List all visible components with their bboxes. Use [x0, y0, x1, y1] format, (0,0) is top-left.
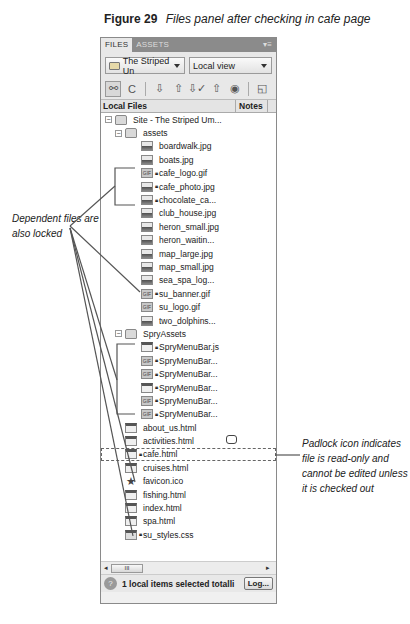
file-name: cruises.html — [143, 463, 188, 473]
file-name: sea_spa_log... — [159, 275, 214, 285]
file-name: favicon.ico — [143, 476, 183, 486]
put-files-icon[interactable]: ⇧ — [170, 81, 186, 97]
tree-file[interactable]: fishing.html — [101, 488, 276, 501]
design-note-icon[interactable] — [226, 435, 237, 444]
tree-file[interactable]: GIF🔒︎SpryMenuBar... — [101, 394, 276, 407]
view-select[interactable]: Local view — [189, 57, 272, 74]
get-files-icon[interactable]: ⇩ — [151, 81, 167, 97]
check-in-icon[interactable]: ⇧ — [208, 81, 224, 97]
file-name: assets — [143, 128, 168, 138]
scroll-left-icon[interactable]: ◂ — [101, 564, 111, 572]
tree-file[interactable]: 🔒︎cafe.html — [101, 448, 276, 461]
padlock-icon: 🔒︎ — [155, 183, 158, 190]
tree-file[interactable]: 🔒︎chocolate_ca... — [101, 193, 276, 206]
refresh-icon[interactable]: C — [124, 81, 140, 97]
chevron-down-icon — [261, 64, 267, 68]
tree-folder[interactable]: −assets — [101, 126, 276, 139]
tree-file[interactable]: 🔒︎cafe_photo.jpg — [101, 180, 276, 193]
help-icon[interactable]: ? — [104, 577, 117, 590]
tree-file[interactable]: about_us.html — [101, 421, 276, 434]
tree-file[interactable]: spa.html — [101, 515, 276, 528]
file-name: SpryMenuBar... — [159, 409, 218, 419]
collapse-toggle-icon[interactable]: − — [115, 130, 122, 137]
tree-file[interactable]: 🔒︎su_styles.css — [101, 528, 276, 541]
scroll-thumb[interactable]: III — [111, 564, 143, 573]
img-file-icon — [141, 249, 153, 259]
tree-file[interactable]: 🔒︎SpryMenuBar.js — [101, 341, 276, 354]
column-notes[interactable]: Notes — [236, 100, 268, 112]
figure-label: Figure 29 — [104, 12, 157, 26]
file-tree[interactable]: −Site - The Striped Um...−assetsboardwal… — [101, 113, 276, 561]
scroll-right-icon[interactable]: ▸ — [266, 564, 270, 572]
img-file-icon — [141, 262, 153, 272]
tree-file[interactable]: map_small.jpg — [101, 260, 276, 273]
synchronize-icon[interactable]: ◉ — [227, 81, 243, 97]
tree-file[interactable]: cruises.html — [101, 461, 276, 474]
tree-file[interactable]: GIF🔒︎SpryMenuBar... — [101, 367, 276, 380]
tree-file[interactable]: GIF🔒︎cafe_logo.gif — [101, 167, 276, 180]
tree-file[interactable]: ★favicon.ico — [101, 475, 276, 488]
js-file-icon — [141, 383, 153, 393]
html-file-icon — [125, 449, 137, 459]
padlock-icon: 🔒︎ — [155, 170, 158, 177]
check-out-icon[interactable]: ⇩✓ — [189, 81, 205, 97]
tree-file[interactable]: boardwalk.jpg — [101, 140, 276, 153]
file-name: heron_waitin... — [159, 235, 214, 245]
tree-file[interactable]: 🔒︎SpryMenuBar... — [101, 381, 276, 394]
figure-caption: Figure 29 Files panel after checking in … — [104, 12, 371, 26]
gif-file-icon: GIF — [141, 289, 153, 299]
file-name: SpryMenuBar... — [159, 383, 218, 393]
file-name: spa.html — [143, 516, 175, 526]
folder-icon — [109, 62, 120, 70]
horizontal-scrollbar[interactable]: ◂ III ▸ — [101, 561, 276, 574]
tree-file[interactable]: two_dolphins... — [101, 314, 276, 327]
file-name: cafe_logo.gif — [159, 168, 207, 178]
img-file-icon — [141, 235, 153, 245]
chevron-down-icon — [174, 64, 180, 68]
img-file-icon — [141, 208, 153, 218]
tab-files[interactable]: FILES — [101, 38, 132, 52]
tree-file[interactable]: map_large.jpg — [101, 247, 276, 260]
gif-file-icon: GIF — [141, 168, 153, 178]
file-name: map_large.jpg — [159, 249, 213, 259]
css-file-icon — [125, 530, 137, 540]
column-local-files[interactable]: Local Files — [101, 100, 236, 112]
file-name: two_dolphins... — [159, 316, 216, 326]
padlock-icon: 🔒︎ — [155, 411, 158, 418]
file-name: SpryMenuBar... — [159, 369, 218, 379]
collapse-toggle-icon[interactable]: − — [115, 330, 122, 337]
panel-menu-icon[interactable]: ▾≡ — [263, 40, 272, 49]
tree-folder[interactable]: −Site - The Striped Um... — [101, 113, 276, 126]
tree-file[interactable]: heron_small.jpg — [101, 220, 276, 233]
tab-assets[interactable]: ASSETS — [132, 38, 173, 52]
connect-icon[interactable]: ⚯ — [105, 81, 121, 97]
img-file-icon — [141, 141, 153, 151]
panel-tab-bar: FILES ASSETS ▾≡ — [101, 38, 276, 52]
tree-file[interactable]: GIFsu_logo.gif — [101, 300, 276, 313]
tree-file[interactable]: activities.html — [101, 434, 276, 447]
tree-file[interactable]: club_house.jpg — [101, 207, 276, 220]
tree-file[interactable]: index.html — [101, 501, 276, 514]
tree-file[interactable]: GIF🔒︎SpryMenuBar... — [101, 354, 276, 367]
expand-icon[interactable]: ◱ — [254, 81, 270, 97]
gif-file-icon: GIF — [141, 409, 153, 419]
toolbar-separator — [248, 82, 249, 96]
img-file-icon — [141, 316, 153, 326]
collapse-toggle-icon[interactable]: − — [105, 116, 112, 123]
log-button[interactable]: Log... — [244, 577, 273, 590]
tree-file[interactable]: boats.jpg — [101, 153, 276, 166]
site-select[interactable]: The Striped Un — [105, 57, 185, 74]
padlock-icon: 🔒︎ — [155, 357, 158, 364]
status-bar: ? 1 local items selected totalli Log... — [101, 574, 276, 592]
file-name: boardwalk.jpg — [159, 141, 211, 151]
tree-file[interactable]: heron_waitin... — [101, 234, 276, 247]
file-name: cafe.html — [143, 449, 178, 459]
padlock-icon: 🔒︎ — [155, 397, 158, 404]
tree-file[interactable]: sea_spa_log... — [101, 274, 276, 287]
tree-file[interactable]: GIF🔒︎su_banner.gif — [101, 287, 276, 300]
tree-folder[interactable]: −SpryAssets — [101, 327, 276, 340]
tree-file[interactable]: GIF🔒︎SpryMenuBar... — [101, 408, 276, 421]
padlock-icon: 🔒︎ — [155, 197, 158, 204]
img-file-icon — [141, 222, 153, 232]
gif-file-icon: GIF — [141, 356, 153, 366]
